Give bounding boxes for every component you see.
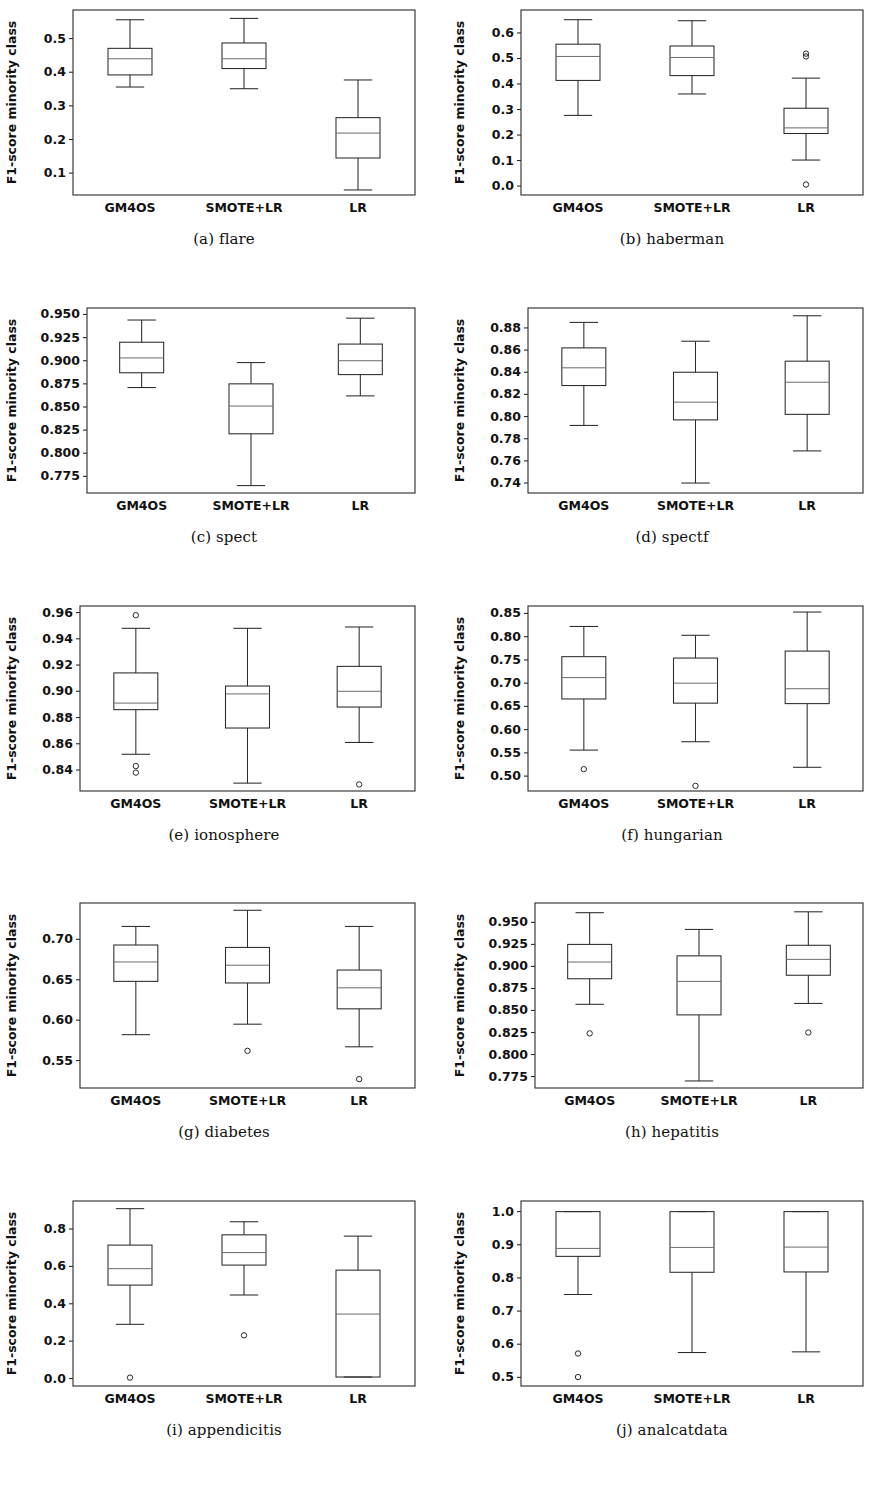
- y-axis-label: F1-score minority class: [452, 21, 467, 185]
- x-tick-label: GM4OS: [552, 1391, 603, 1406]
- y-tick-label: 0.9: [492, 1237, 514, 1252]
- y-tick-label: 0.88: [42, 709, 73, 724]
- y-tick-label: 0.84: [490, 364, 521, 379]
- boxplot-d: 0.740.760.780.800.820.840.860.88F1-score…: [448, 298, 896, 526]
- y-tick-label: 1.0: [492, 1204, 514, 1219]
- y-tick-label: 0.94: [42, 630, 73, 645]
- box-smote-lr: [226, 911, 270, 1054]
- y-tick-label: 0.3: [492, 102, 514, 117]
- y-tick-label: 0.950: [40, 306, 80, 321]
- box-lr: [785, 316, 829, 451]
- outlier-point: [587, 1031, 592, 1036]
- outlier-point: [133, 763, 138, 768]
- outlier-point: [356, 781, 361, 786]
- y-tick-label: 0.80: [490, 408, 521, 423]
- box-smote-lr: [670, 21, 714, 94]
- outlier-point: [575, 1351, 580, 1356]
- x-tick-label: SMOTE+LR: [209, 1093, 287, 1108]
- y-tick-label: 0.800: [488, 1047, 528, 1062]
- panel-caption-i: (i) appendicitis: [166, 1421, 282, 1439]
- panel-caption-j: (j) analcatdata: [616, 1421, 728, 1439]
- x-tick-label: GM4OS: [104, 1391, 155, 1406]
- box-smote-lr: [674, 341, 718, 483]
- y-tick-label: 0.80: [490, 628, 521, 643]
- y-tick-label: 0.800: [40, 445, 80, 460]
- plot-area-i: 0.00.20.40.60.8F1-score minority classGM…: [0, 1191, 448, 1419]
- plot-area-d: 0.740.760.780.800.820.840.860.88F1-score…: [448, 298, 896, 526]
- y-tick-label: 0.70: [42, 932, 73, 947]
- boxplot-h: 0.7750.8000.8250.8500.8750.9000.9250.950…: [448, 893, 896, 1121]
- y-tick-label: 0.65: [490, 698, 521, 713]
- box-lr: [336, 1236, 380, 1377]
- box-smote-lr: [677, 930, 721, 1082]
- y-tick-label: 0.5: [44, 31, 66, 46]
- outlier-point: [581, 766, 586, 771]
- box-gm4os: [562, 626, 606, 771]
- panel-caption-c: (c) spect: [191, 528, 257, 546]
- box-lr: [338, 318, 382, 396]
- y-axis-label: F1-score minority class: [452, 914, 467, 1078]
- plot-area-a: 0.10.20.30.40.5F1-score minority classGM…: [0, 0, 448, 228]
- y-tick-label: 0.7: [492, 1303, 514, 1318]
- x-tick-label: GM4OS: [110, 1093, 161, 1108]
- y-tick-label: 0.85: [490, 605, 521, 620]
- panel-a: 0.10.20.30.40.5F1-score minority classGM…: [0, 0, 448, 298]
- y-tick-label: 0.850: [40, 399, 80, 414]
- y-tick-label: 0.6: [492, 1336, 514, 1351]
- panel-caption-f: (f) hungarian: [621, 826, 722, 844]
- outlier-point: [356, 1077, 361, 1082]
- y-tick-label: 0.5: [492, 50, 514, 65]
- x-tick-label: SMOTE+LR: [657, 497, 735, 512]
- boxplot-a: 0.10.20.30.40.5F1-score minority classGM…: [0, 0, 448, 228]
- box-smote-lr: [229, 362, 273, 485]
- x-tick-label: LR: [797, 1391, 815, 1406]
- panel-f: 0.500.550.600.650.700.750.800.85F1-score…: [448, 596, 896, 894]
- y-tick-label: 0.950: [488, 915, 528, 930]
- y-tick-label: 0.3: [44, 98, 66, 113]
- box-lr: [786, 912, 830, 1035]
- y-tick-label: 0.74: [490, 475, 521, 490]
- x-tick-label: GM4OS: [552, 200, 603, 215]
- x-tick-label: LR: [798, 795, 816, 810]
- plot-area-f: 0.500.550.600.650.700.750.800.85F1-score…: [448, 596, 896, 824]
- y-tick-label: 0.925: [40, 329, 80, 344]
- panel-j: 0.50.60.70.80.91.0F1-score minority clas…: [448, 1191, 896, 1489]
- y-tick-label: 0.78: [490, 431, 521, 446]
- panel-caption-b: (b) haberman: [620, 230, 724, 248]
- y-tick-label: 0.1: [44, 165, 66, 180]
- y-axis-label: F1-score minority class: [4, 914, 19, 1078]
- box-lr: [784, 1212, 828, 1352]
- plot-area-e: 0.840.860.880.900.920.940.96F1-score min…: [0, 596, 448, 824]
- y-tick-label: 0.775: [40, 468, 80, 483]
- y-tick-label: 0.900: [488, 959, 528, 974]
- y-tick-label: 0.900: [40, 353, 80, 368]
- box-smote-lr: [222, 18, 266, 88]
- box-gm4os: [114, 612, 158, 775]
- panel-caption-e: (e) ionosphere: [168, 826, 279, 844]
- x-tick-label: GM4OS: [110, 795, 161, 810]
- y-tick-label: 0.4: [44, 64, 66, 79]
- box-smote-lr: [670, 1212, 714, 1353]
- box-lr: [337, 627, 381, 787]
- y-tick-label: 0.60: [42, 1013, 73, 1028]
- outlier-point: [806, 1030, 811, 1035]
- y-tick-label: 0.88: [490, 320, 521, 335]
- x-tick-label: SMOTE+LR: [205, 1391, 283, 1406]
- outlier-point: [693, 783, 698, 788]
- x-tick-label: SMOTE+LR: [212, 497, 290, 512]
- y-tick-label: 0.2: [44, 132, 66, 147]
- box-lr: [336, 80, 380, 190]
- y-tick-label: 0.55: [42, 1053, 73, 1068]
- x-tick-label: GM4OS: [116, 497, 167, 512]
- panel-caption-a: (a) flare: [193, 230, 255, 248]
- boxplot-b: 0.00.10.20.30.40.50.6F1-score minority c…: [448, 0, 896, 228]
- outlier-point: [241, 1333, 246, 1338]
- box-gm4os: [556, 1212, 600, 1380]
- x-tick-label: SMOTE+LR: [205, 200, 283, 215]
- panel-caption-d: (d) spectf: [635, 528, 708, 546]
- x-tick-label: GM4OS: [104, 200, 155, 215]
- y-tick-label: 0.775: [488, 1069, 528, 1084]
- panel-caption-h: (h) hepatitis: [625, 1123, 719, 1141]
- x-tick-label: LR: [350, 1093, 368, 1108]
- plot-area-c: 0.7750.8000.8250.8500.8750.9000.9250.950…: [0, 298, 448, 526]
